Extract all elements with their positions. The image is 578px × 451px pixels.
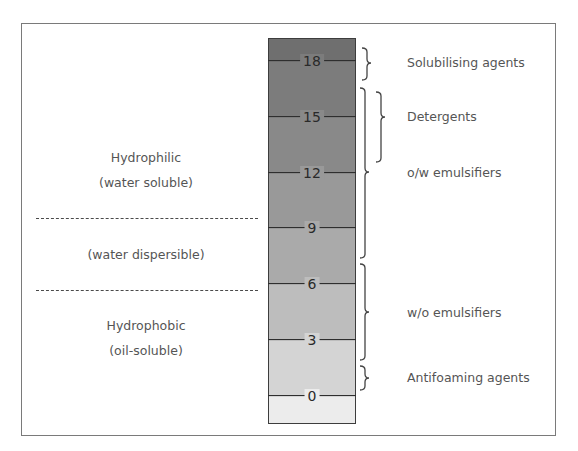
divider-dashed-upper [36,218,258,219]
tick-label-0: 0 [305,389,320,403]
hydrophilic-label: Hydrophilic [111,150,181,165]
hydrophobic-label: Hydrophobic [106,318,185,333]
application-detergents: Detergents [407,109,477,124]
water-soluble-label: (water soluble) [99,175,193,190]
application-wo-emulsifiers: w/o emulsifiers [407,305,502,320]
tick-label-9: 9 [305,221,320,235]
tick-label-3: 3 [305,333,320,347]
application-solubilising-agents: Solubilising agents [407,55,525,70]
application-ow-emulsifiers: o/w emulsifiers [407,165,502,180]
water-dispersible-label: (water dispersible) [87,247,204,262]
tick-label-18: 18 [300,54,324,68]
tick-label-12: 12 [300,166,324,180]
oil-soluble-label: (oil-soluble) [109,343,183,358]
brace-ow-emulsifiers-icon [358,86,378,262]
brace-solubilising-icon [360,46,390,86]
application-antifoaming-agents: Antifoaming agents [407,370,530,385]
tick-label-15: 15 [300,110,324,124]
brace-wo-emulsifiers-icon [358,262,378,364]
divider-dashed-lower [36,290,258,291]
tick-label-6: 6 [305,277,320,291]
brace-antifoaming-icon [358,364,378,394]
